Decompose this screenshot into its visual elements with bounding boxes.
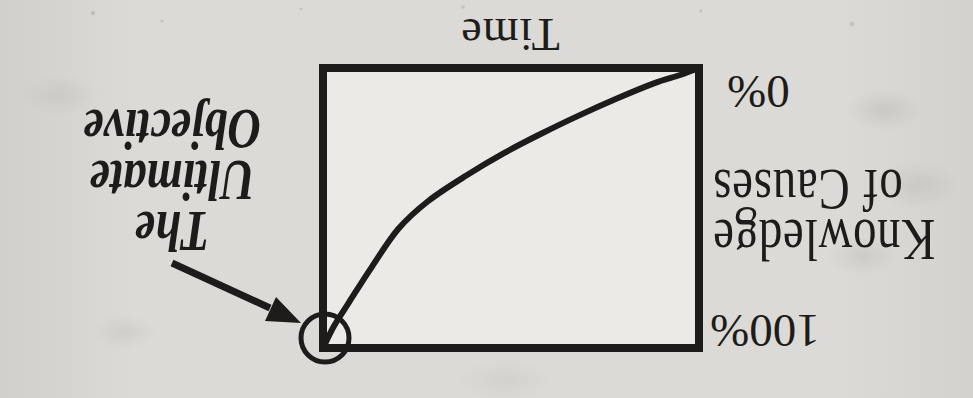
plot-border <box>323 68 699 348</box>
annotation-label: The Ultimate Objective <box>68 104 276 257</box>
y-axis-label-line2: of Causes <box>712 165 935 215</box>
y-axis-label: Knowledge of Causes <box>712 165 935 265</box>
scanned-page: Time 100% Knowledge of Causes 0% The Ult… <box>0 0 973 398</box>
x-axis-label: Time <box>410 11 610 57</box>
learning-curve-figure: Time 100% Knowledge of Causes 0% The Ult… <box>0 0 973 398</box>
y-tick-0-percent: 0% <box>727 68 790 115</box>
annotation-label-line2: Objective <box>68 104 276 155</box>
annotation-label-line1: The Ultimate <box>68 155 276 257</box>
y-tick-100-percent: 100% <box>710 307 820 354</box>
annotation-arrow-head-icon <box>265 297 301 323</box>
annotation-arrow-shaft <box>172 263 270 308</box>
